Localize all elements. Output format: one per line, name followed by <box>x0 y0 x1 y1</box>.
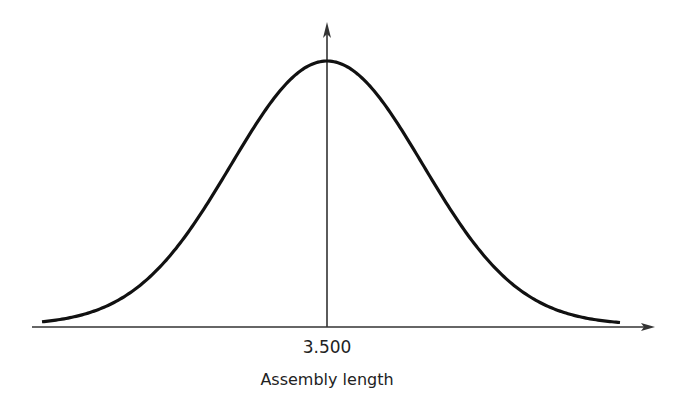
x-axis-label: Assembly length <box>0 370 654 389</box>
bell-curve <box>42 61 620 322</box>
x-tick-mean: 3.500 <box>0 337 654 357</box>
